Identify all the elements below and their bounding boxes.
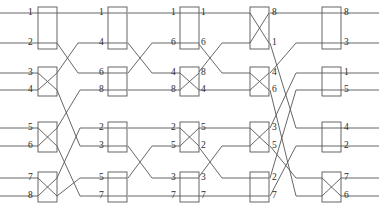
switch-box-s1-p4[interactable] xyxy=(38,172,57,202)
switch-box-outline xyxy=(180,172,199,202)
switch-box-s3-p1[interactable] xyxy=(180,7,199,49)
wire-label-s3-in-5: 2 xyxy=(171,123,176,133)
wire-label-s3-in-3: 4 xyxy=(171,68,176,78)
wire-label-in-7: 7 xyxy=(28,173,33,183)
switch-box-s4-p4[interactable] xyxy=(250,172,269,202)
wire-label-s2-in-7: 5 xyxy=(99,173,104,183)
wire-label-s3-out-6: 2 xyxy=(201,141,206,151)
wire-label-s3-out-2: 6 xyxy=(201,38,206,48)
wire-label-s2-in-1: 1 xyxy=(99,8,104,18)
wire-label-in-4: 4 xyxy=(28,85,33,95)
wire-label-in-6: 6 xyxy=(28,141,33,151)
network-canvas xyxy=(0,0,379,223)
switch-box-outline xyxy=(108,67,127,96)
wire-label-s4-out-5: 3 xyxy=(272,123,277,133)
switch-box-layer xyxy=(38,7,341,202)
wire-label-s4-out-4: 6 xyxy=(272,85,277,95)
wire-label-s2-in-6: 3 xyxy=(99,141,104,151)
link-s4-s5-h xyxy=(270,146,322,196)
wire-label-s3-in-4: 8 xyxy=(171,85,176,95)
link-s4-s5-g xyxy=(270,90,322,178)
switch-box-s5-p3[interactable] xyxy=(322,122,341,152)
wire-label-s3-out-8: 7 xyxy=(201,191,206,201)
switch-box-s2-p4[interactable] xyxy=(108,172,127,202)
wire-label-s2-in-2: 4 xyxy=(99,38,104,48)
switch-box-s1-p3[interactable] xyxy=(38,122,57,152)
switch-box-s4-p1[interactable] xyxy=(250,7,269,49)
wire-label-s2-in-3: 6 xyxy=(99,68,104,78)
wire-label-s3-out-7: 3 xyxy=(201,173,206,183)
switch-box-s1-p1[interactable] xyxy=(38,7,57,49)
switch-box-outline xyxy=(322,122,341,152)
wire-label-in-3: 3 xyxy=(28,68,33,78)
wire-label-s3-in-6: 5 xyxy=(171,141,176,151)
wire-label-s3-in-8: 7 xyxy=(171,191,176,201)
link-s4-s5-b xyxy=(270,43,322,128)
wire-label-out-6: 2 xyxy=(344,141,349,151)
wire-label-s2-in-5: 2 xyxy=(99,123,104,133)
switch-box-outline xyxy=(108,172,127,202)
switch-box-outline xyxy=(322,67,341,96)
wire-label-s3-in-1: 1 xyxy=(171,8,176,18)
wire-label-s4-out-8: 7 xyxy=(272,191,277,201)
wire-label-s3-out-5: 5 xyxy=(201,123,206,133)
wire-label-s4-out-7: 2 xyxy=(272,173,277,183)
wire-label-s3-out-1: 1 xyxy=(201,8,206,18)
switch-box-s5-p1[interactable] xyxy=(322,7,341,49)
switching-network-diagram: 1234567814682357164825371684523781463527… xyxy=(0,0,379,223)
wire-label-s4-out-2: 1 xyxy=(272,38,277,48)
wire-label-s3-in-7: 3 xyxy=(171,173,176,183)
link-s1-s2-g xyxy=(57,128,108,178)
wire-label-s3-out-4: 4 xyxy=(201,85,206,95)
wire-label-out-1: 8 xyxy=(344,8,349,18)
switch-box-s2-p2[interactable] xyxy=(108,67,127,96)
switch-box-s3-p3[interactable] xyxy=(180,122,199,152)
wire-label-s4-out-1: 8 xyxy=(272,8,277,18)
wire-label-s3-in-2: 6 xyxy=(171,38,176,48)
switch-box-s2-p3[interactable] xyxy=(108,122,127,152)
wire-label-out-2: 3 xyxy=(344,38,349,48)
switch-box-s5-p2[interactable] xyxy=(322,67,341,96)
switch-box-s5-p4[interactable] xyxy=(322,172,341,202)
wire-label-out-8: 6 xyxy=(344,191,349,201)
switch-box-s2-p1[interactable] xyxy=(108,7,127,49)
wire-label-out-5: 4 xyxy=(344,123,349,133)
wire-label-out-4: 5 xyxy=(344,85,349,95)
link-s1-s2-d xyxy=(57,90,108,146)
switch-box-s4-p2[interactable] xyxy=(250,67,269,96)
wire-label-out-3: 1 xyxy=(344,68,349,78)
wire-label-in-1: 1 xyxy=(28,8,33,18)
wire-label-s4-out-3: 4 xyxy=(272,68,277,78)
link-s4-s5-e xyxy=(270,73,322,128)
wire-label-s4-out-6: 5 xyxy=(272,141,277,151)
wire-label-out-7: 7 xyxy=(344,173,349,183)
switch-box-outline xyxy=(250,172,269,202)
wire-label-s2-in-4: 8 xyxy=(99,85,104,95)
wire-label-in-8: 8 xyxy=(28,191,33,201)
wire-label-in-5: 5 xyxy=(28,123,33,133)
wire-label-s2-in-8: 7 xyxy=(99,191,104,201)
wire-label-in-2: 2 xyxy=(28,38,33,48)
switch-box-s3-p4[interactable] xyxy=(180,172,199,202)
switch-box-outline xyxy=(108,122,127,152)
switch-box-s3-p2[interactable] xyxy=(180,67,199,96)
switch-box-s1-p2[interactable] xyxy=(38,67,57,96)
wire-label-s3-out-3: 8 xyxy=(201,68,206,78)
link-s1-s2-f xyxy=(57,146,108,196)
switch-box-s4-p3[interactable] xyxy=(250,122,269,152)
